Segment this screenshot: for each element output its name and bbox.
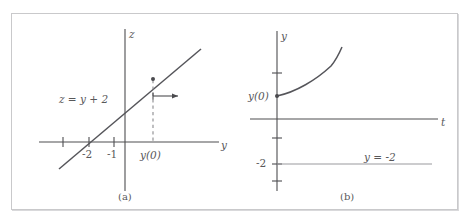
panel-b-solution-curve [277, 47, 342, 96]
panel-b-horizontal-axis-label: t [441, 117, 445, 128]
panel-a-flow-arrow-head [172, 93, 178, 98]
panel-b-initial-point-marker [275, 94, 279, 98]
panel-a-horizontal-axis-label: y [221, 140, 227, 151]
panel-b-ticklabel-minus2: -2 [256, 158, 266, 169]
panel-b-plot [236, 14, 459, 211]
panel-a-ticklabel-minus1: -1 [107, 149, 117, 160]
figure-panel-a: z y z = y + 2 -2 -1 y(0) (a) [12, 14, 236, 211]
panel-b-initial-value-label: y(0) [248, 91, 269, 102]
panel-b-vertical-axis-label: y [281, 31, 287, 42]
panel-b-asymptote-label: y = -2 [364, 152, 396, 163]
panel-b-caption: (b) [340, 192, 354, 202]
figure-frame: z y z = y + 2 -2 -1 y(0) (a) y t y [11, 13, 458, 210]
panel-a-vertical-axis-label: z [129, 29, 135, 40]
panel-a-ticklabel-minus2: -2 [82, 149, 92, 160]
panel-a-initial-value-label: y(0) [140, 150, 161, 161]
figure-panel-b: y t y(0) -2 y = -2 (b) [236, 14, 459, 211]
panel-a-point-marker [151, 77, 155, 81]
panel-a-caption: (a) [118, 192, 132, 202]
panel-a-line-z-equals-y-plus-2 [59, 49, 201, 169]
panel-a-line-equation-label: z = y + 2 [59, 94, 108, 105]
panel-a-plot [12, 14, 236, 211]
